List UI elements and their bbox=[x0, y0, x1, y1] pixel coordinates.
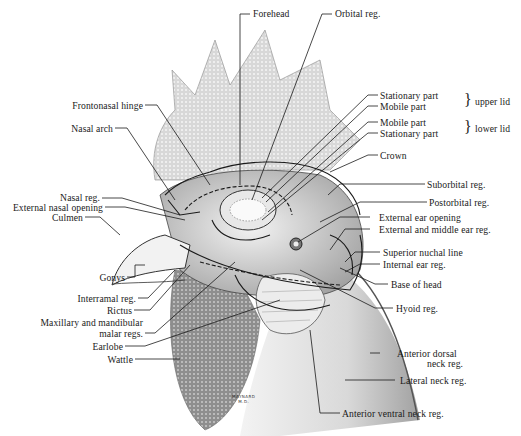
label-lower-lid: lower lid bbox=[475, 123, 510, 134]
label-wattle: Wattle bbox=[108, 354, 133, 365]
label-external-middle-ear-reg: External and middle ear reg. bbox=[379, 224, 491, 235]
label-lower-lid-stationary-part: Stationary part bbox=[380, 128, 438, 139]
label-crown: Crown bbox=[380, 150, 407, 161]
brace-upper-lid: } bbox=[464, 91, 472, 109]
label-external-ear-opening: External ear opening bbox=[379, 212, 461, 223]
label-postorbital-reg: Postorbital reg. bbox=[429, 197, 489, 208]
label-orbital-reg: Orbital reg. bbox=[335, 8, 380, 19]
label-base-of-head: Base of head bbox=[391, 279, 442, 290]
label-rictus: Rictus bbox=[107, 305, 132, 316]
label-earlobe: Earlobe bbox=[92, 341, 123, 352]
label-upper-lid-mobile-part: Mobile part bbox=[380, 101, 426, 112]
label-superior-nuchal-line: Superior nuchal line bbox=[383, 247, 463, 258]
label-frontonasal-hinge: Frontonasal hinge bbox=[72, 100, 143, 111]
label-suborbital-reg: Suborbital reg. bbox=[427, 179, 486, 190]
brace-lower-lid: } bbox=[464, 118, 472, 136]
rooster-head-diagram: Forehead Orbital reg. Stationary part Mo… bbox=[0, 0, 521, 436]
label-forehead: Forehead bbox=[253, 8, 290, 19]
label-lower-lid-mobile-part: Mobile part bbox=[380, 117, 426, 128]
label-hyoid-reg: Hyoid reg. bbox=[396, 303, 438, 314]
label-gonys: Gonys bbox=[99, 272, 125, 283]
label-interramal-reg: Interramal reg. bbox=[78, 293, 137, 304]
label-nasal-arch: Nasal arch bbox=[71, 123, 113, 134]
artist-signature: MAYNARD M.D. bbox=[232, 394, 255, 404]
label-culmen: Culmen bbox=[52, 212, 83, 223]
label-anterior-ventral-neck-reg: Anterior ventral neck reg. bbox=[342, 408, 444, 419]
label-upper-lid: upper lid bbox=[475, 96, 510, 107]
label-internal-ear-reg: Internal ear reg. bbox=[383, 259, 446, 270]
label-malar-regs-line1: Maxillary and mandibular bbox=[40, 317, 143, 328]
label-upper-lid-stationary-part: Stationary part bbox=[380, 90, 438, 101]
label-anterior-dorsal-neck-reg-line2: neck reg. bbox=[427, 358, 463, 369]
label-malar-regs-line2: malar regs. bbox=[99, 328, 143, 339]
label-lateral-neck-reg: Lateral neck reg. bbox=[400, 375, 466, 386]
